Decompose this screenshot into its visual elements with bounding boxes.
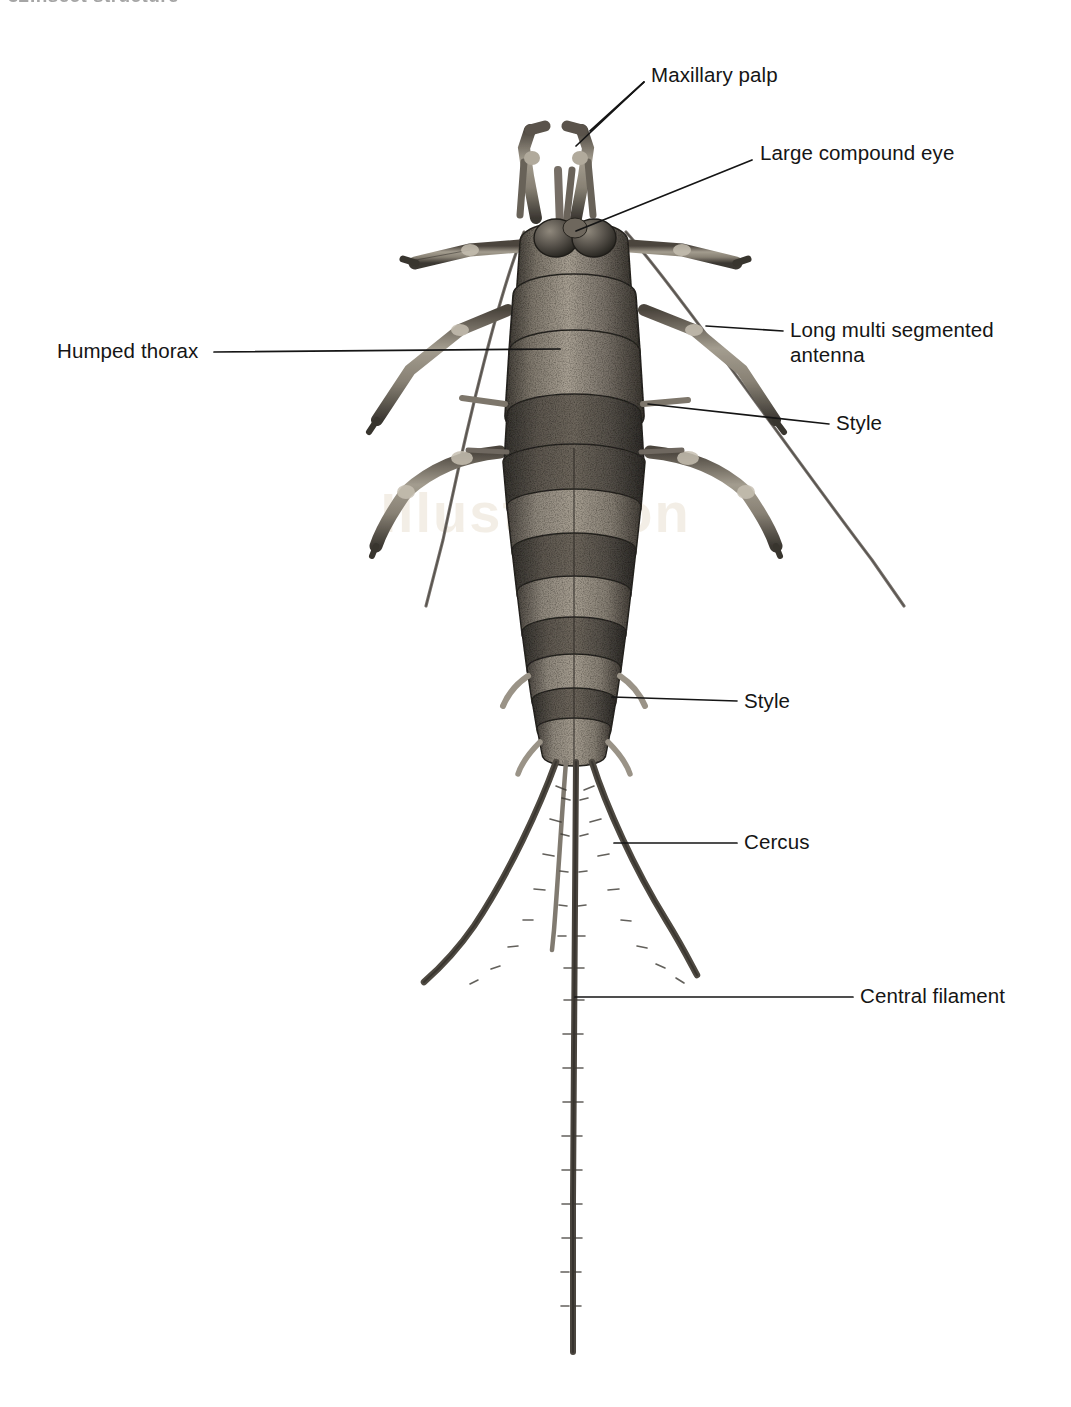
leg-mid-left [369, 310, 508, 432]
leader-maxillary-palp-b [576, 82, 644, 146]
bristletail-illustration [0, 0, 1071, 1407]
label-style-abdominal: Style [744, 688, 790, 713]
leader-antenna [706, 326, 783, 331]
label-long-multi-segmented-antenna: Long multi segmented antenna [790, 317, 994, 367]
leg-hind-left [372, 452, 500, 556]
label-maxillary-palp: Maxillary palp [651, 62, 778, 87]
label-style-thoracic: Style [836, 410, 882, 435]
label-central-filament: Central filament [860, 983, 1005, 1008]
tail-filaments [424, 762, 697, 1352]
label-cercus: Cercus [744, 829, 810, 854]
label-humped-thorax: Humped thorax [57, 338, 198, 363]
central-filament [573, 762, 576, 1352]
figure-page: 32 Insect structure Illustration [0, 0, 1071, 1407]
label-large-compound-eye: Large compound eye [760, 140, 954, 165]
leg-hind-right [650, 452, 780, 556]
cercus-left [424, 762, 556, 982]
leader-large-compound-eye [576, 160, 752, 231]
maxillary-palp-left [520, 126, 545, 218]
abdomen [503, 444, 645, 774]
cercus-right [592, 762, 697, 975]
leader-style-thoracic [648, 404, 829, 424]
leader-style-abdominal [612, 697, 737, 701]
leader-humped-thorax [214, 349, 560, 352]
